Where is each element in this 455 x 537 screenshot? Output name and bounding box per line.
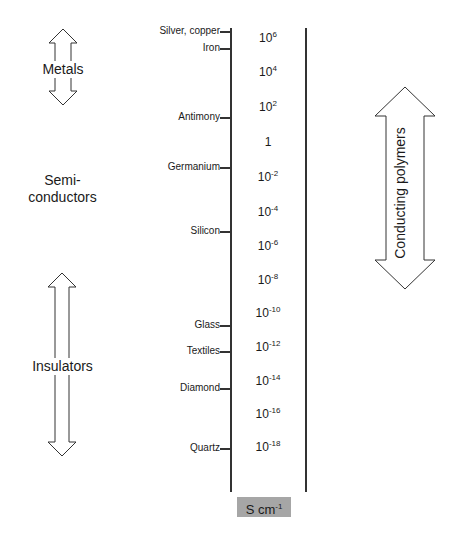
scale-value: 106 xyxy=(243,28,293,45)
tick-silver-copper xyxy=(220,31,231,33)
tick-diamond xyxy=(220,388,231,390)
scale-value: 10-10 xyxy=(243,303,293,320)
class-label-semi-line2: conductors xyxy=(15,189,110,206)
tick-silicon xyxy=(220,231,231,233)
material-label-glass: Glass xyxy=(194,319,220,331)
material-label-antimony: Antimony xyxy=(178,111,220,123)
tick-quartz xyxy=(220,448,231,450)
scale-value: 10-14 xyxy=(243,371,293,388)
scale-value: 1 xyxy=(243,132,293,149)
tick-glass xyxy=(220,325,231,327)
tick-textiles xyxy=(220,351,231,353)
tick-iron xyxy=(220,48,231,50)
class-label-semi-line1: Semi- xyxy=(15,172,110,189)
scale-value: 102 xyxy=(243,97,293,114)
tick-germanium xyxy=(220,167,231,169)
scale-value: 10-4 xyxy=(243,202,293,219)
material-label-quartz: Quartz xyxy=(190,442,220,454)
class-label-metals: Metals xyxy=(33,61,93,78)
class-label-conducting-polymers: Conducting polymers xyxy=(392,127,408,259)
material-label-diamond: Diamond xyxy=(180,382,220,394)
material-label-germanium: Germanium xyxy=(168,161,220,173)
material-label-silver-copper: Silver, copper xyxy=(159,25,220,37)
scale-value: 10-18 xyxy=(243,437,293,454)
unit-label: S cm-1 xyxy=(237,497,291,517)
scale-left-axis xyxy=(230,28,232,492)
material-label-iron: Iron xyxy=(203,42,220,54)
class-label-semiconductors: Semi- conductors xyxy=(15,172,110,206)
scale-value: 10-6 xyxy=(243,236,293,253)
tick-antimony xyxy=(220,117,231,119)
scale-value: 10-2 xyxy=(243,167,293,184)
scale-value: 104 xyxy=(243,62,293,79)
material-label-silicon: Silicon xyxy=(191,225,220,237)
scale-right-axis xyxy=(305,28,307,492)
class-label-insulators: Insulators xyxy=(25,358,100,375)
scale-value: 10-16 xyxy=(243,404,293,421)
scale-value: 10-12 xyxy=(243,337,293,354)
material-label-textiles: Textiles xyxy=(187,345,220,357)
arrows-layer xyxy=(0,0,455,537)
scale-value: 10-8 xyxy=(243,270,293,287)
